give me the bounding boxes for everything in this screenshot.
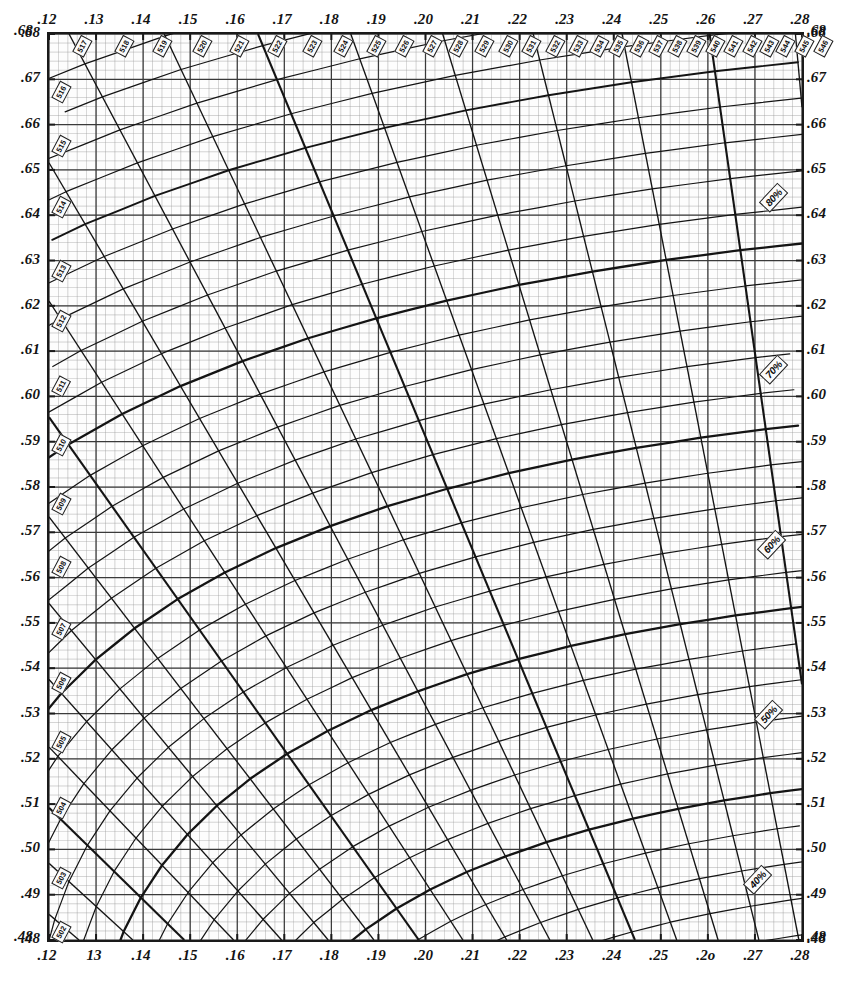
x-axis-tick-bottom: .28 bbox=[790, 948, 809, 963]
x-axis-tick-bottom: .21 bbox=[461, 948, 480, 963]
y-axis-tick-right: .60 bbox=[807, 387, 826, 402]
y-axis-tick-left: .64 bbox=[21, 206, 40, 221]
x-axis-tick-top: .12 bbox=[37, 12, 56, 27]
x-axis-tick-bottom: .23 bbox=[555, 948, 574, 963]
y-axis-tick-left: .51 bbox=[21, 795, 40, 810]
x-axis-tick-bottom: .20 bbox=[414, 948, 433, 963]
y-axis-tick-right: .56 bbox=[807, 568, 826, 583]
y-axis-tick-left: .53 bbox=[21, 704, 40, 719]
x-axis-tick-bottom: .17 bbox=[273, 948, 292, 963]
x-axis-tick-top: .20 bbox=[414, 12, 433, 27]
x-axis-tick-top: .24 bbox=[602, 12, 621, 27]
x-axis-tick-top: .18 bbox=[320, 12, 339, 27]
y-axis-tick-right: .57 bbox=[807, 523, 826, 538]
x-axis-tick-top: .13 bbox=[85, 12, 104, 27]
y-axis-tick-right: .67 bbox=[807, 70, 826, 85]
y-axis-tick-left: .54 bbox=[21, 659, 40, 674]
y-axis-tick-left: .57 bbox=[21, 523, 40, 538]
x-axis-tick-bottom: .25 bbox=[649, 948, 668, 963]
y-axis-tick-right: .50 bbox=[807, 840, 826, 855]
y-axis-tick-left: .62 bbox=[21, 296, 40, 311]
chart-canvas bbox=[49, 34, 802, 940]
y-axis-tick-left: .58 bbox=[21, 478, 40, 493]
y-axis-tick-left: .52 bbox=[21, 749, 40, 764]
x-axis-tick-top: .22 bbox=[508, 12, 527, 27]
x-axis-tick-top: .19 bbox=[367, 12, 386, 27]
x-axis-tick-top: .26 bbox=[696, 12, 715, 27]
x-axis-tick-top: .15 bbox=[179, 12, 198, 27]
x-axis-tick-bottom: .15 bbox=[179, 948, 198, 963]
y-axis-tick-right: .63 bbox=[807, 251, 826, 266]
x-axis-tick-top: .23 bbox=[555, 12, 574, 27]
y-axis-tick-left: .65 bbox=[21, 160, 40, 175]
y-axis-tick-left: .67 bbox=[21, 70, 40, 85]
y-axis-tick-left: .55 bbox=[21, 613, 40, 628]
y-axis-tick-right: .62 bbox=[807, 296, 826, 311]
x-axis-tick-bottom: .14 bbox=[132, 948, 151, 963]
x-axis-tick-bottom: 13 bbox=[86, 948, 101, 963]
y-axis-tick-left: .63 bbox=[21, 251, 40, 266]
y-axis-tick-right: .51 bbox=[807, 795, 826, 810]
y-axis-tick-right: .61 bbox=[807, 342, 826, 357]
y-axis-tick-right: .66 bbox=[807, 115, 826, 130]
y-axis-tick-left: .56 bbox=[21, 568, 40, 583]
y-axis-tick-right: .49 bbox=[807, 885, 826, 900]
x-axis-tick-top: .16 bbox=[226, 12, 245, 27]
x-axis-tick-top: .14 bbox=[132, 12, 151, 27]
x-axis-tick-bottom: .24 bbox=[602, 948, 621, 963]
corner-label-bottom-right: .48 bbox=[807, 928, 826, 945]
y-axis-tick-left: .66 bbox=[21, 115, 40, 130]
y-axis-tick-right: .65 bbox=[807, 160, 826, 175]
x-axis-tick-bottom: .16 bbox=[226, 948, 245, 963]
x-axis-tick-bottom: .18 bbox=[320, 948, 339, 963]
y-axis-tick-right: .55 bbox=[807, 613, 826, 628]
x-axis-tick-bottom: .27 bbox=[743, 948, 762, 963]
y-axis-tick-right: .54 bbox=[807, 659, 826, 674]
y-axis-tick-left: .50 bbox=[21, 840, 40, 855]
y-axis-tick-right: .59 bbox=[807, 432, 826, 447]
y-axis-tick-left: .60 bbox=[21, 387, 40, 402]
plot-area bbox=[47, 32, 804, 942]
y-axis-tick-right: .52 bbox=[807, 749, 826, 764]
x-axis-tick-top: .17 bbox=[273, 12, 292, 27]
major-gridlines bbox=[49, 34, 802, 940]
y-axis-tick-right: .64 bbox=[807, 206, 826, 221]
x-axis-tick-bottom: .12 bbox=[37, 948, 56, 963]
x-axis-tick-top: .25 bbox=[649, 12, 668, 27]
corner-label-bottom-left: .48 bbox=[14, 928, 33, 945]
y-axis-tick-left: .61 bbox=[21, 342, 40, 357]
y-axis-tick-right: .53 bbox=[807, 704, 826, 719]
y-axis-tick-right: .58 bbox=[807, 478, 826, 493]
y-axis-tick-left: .59 bbox=[21, 432, 40, 447]
y-axis-tick-left: .49 bbox=[21, 885, 40, 900]
x-axis-tick-top: .21 bbox=[461, 12, 480, 27]
x-axis-tick-bottom: .22 bbox=[508, 948, 527, 963]
x-axis-tick-bottom: .2o bbox=[696, 948, 715, 963]
chart-stage: .12.13.14.15.16.17.18.19.20.21.22.23.24.… bbox=[0, 0, 848, 987]
x-axis-tick-bottom: .19 bbox=[367, 948, 386, 963]
x-axis-tick-top: .27 bbox=[743, 12, 762, 27]
corner-label-top-left: .68 bbox=[14, 22, 33, 39]
